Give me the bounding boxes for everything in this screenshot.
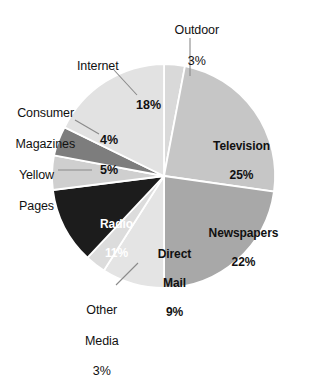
label-television-value: 25% <box>230 168 254 182</box>
label-television-name: Television <box>213 139 270 153</box>
label-outdoor-value: 3% <box>188 54 206 68</box>
label-direct-mail-value: 9% <box>166 305 183 319</box>
label-consumer-magazines-line2: Magazines <box>16 137 76 151</box>
label-newspapers-value: 22% <box>232 255 256 269</box>
value-consumer-magazines: 4% <box>100 133 118 147</box>
label-other-media: Other Media 3% <box>62 288 128 379</box>
label-yellow-pages: Yellow Pages <box>2 153 54 229</box>
label-radio-value: 11% <box>105 246 128 260</box>
label-yellow-pages-line1: Yellow <box>19 168 54 182</box>
label-other-media-line1: Other <box>86 303 117 317</box>
label-other-media-line2: Media <box>85 334 119 348</box>
label-direct-mail-line1: Direct <box>158 247 191 261</box>
label-consumer-magazines-line1: Consumer <box>17 106 74 120</box>
label-other-media-value: 3% <box>93 364 111 378</box>
label-newspapers-name: Newspapers <box>209 226 279 240</box>
label-radio: Radio 11% <box>75 203 145 275</box>
value-yellow-pages: 5% <box>100 163 118 177</box>
label-outdoor: Outdoor 3% <box>153 8 227 84</box>
label-direct-mail-line2: Mail <box>163 276 186 290</box>
label-internet-name: Internet <box>77 59 119 73</box>
label-direct-mail: Direct Mail 9% <box>142 233 194 334</box>
label-outdoor-name: Outdoor <box>175 23 219 37</box>
label-radio-name: Radio <box>100 217 133 231</box>
value-internet: 18% <box>136 98 161 112</box>
label-television: Television 25% <box>192 125 278 197</box>
label-yellow-pages-line2: Pages <box>19 199 54 213</box>
label-newspapers: Newspapers 22% <box>189 212 285 284</box>
label-internet: Internet <box>57 44 125 90</box>
